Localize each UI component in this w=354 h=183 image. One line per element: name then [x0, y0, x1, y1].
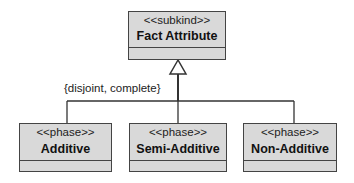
class-name: Additive	[20, 142, 111, 156]
stereotype-label: <<phase>>	[130, 126, 226, 138]
attribute-compartment-divider	[130, 160, 226, 161]
attribute-compartment-divider	[244, 160, 336, 161]
generalization-constraint: {disjoint, complete}	[64, 82, 161, 94]
class-fact-attribute[interactable]: <<subkind>> Fact Attribute	[128, 11, 226, 60]
class-semi-additive[interactable]: <<phase>> Semi-Additive	[129, 123, 227, 172]
class-name: Non-Additive	[244, 142, 336, 156]
class-non-additive[interactable]: <<phase>> Non-Additive	[243, 123, 337, 172]
stereotype-label: <<phase>>	[244, 126, 336, 138]
class-name: Fact Attribute	[129, 29, 225, 43]
class-name: Semi-Additive	[130, 142, 226, 156]
generalization-arrowhead-icon	[170, 60, 186, 74]
attribute-compartment-divider	[20, 160, 111, 161]
class-additive[interactable]: <<phase>> Additive	[19, 123, 112, 172]
stereotype-label: <<phase>>	[20, 126, 111, 138]
attribute-compartment-divider	[129, 47, 225, 48]
stereotype-label: <<subkind>>	[129, 14, 225, 26]
